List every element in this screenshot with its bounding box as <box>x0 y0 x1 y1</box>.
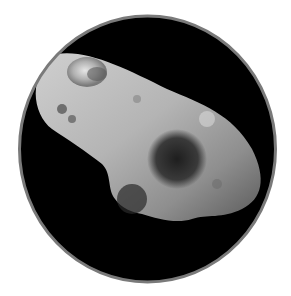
asteroid-image <box>17 14 278 284</box>
asteroid-photo-frame <box>17 14 278 284</box>
